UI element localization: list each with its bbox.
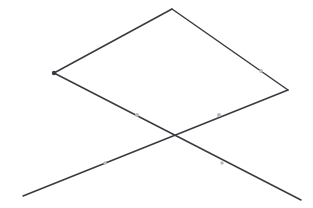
gap-marker-right-branch-icon	[217, 113, 221, 117]
gap-marker-lower-left-icon	[103, 161, 106, 164]
left-vertex-node-icon	[52, 71, 56, 75]
canvas-background	[0, 0, 313, 208]
gap-marker-left-branch-icon	[135, 113, 139, 117]
drawing-canvas	[0, 0, 313, 208]
line-drawing-figure	[0, 0, 313, 208]
gap-marker-upper-right-icon	[259, 69, 263, 73]
gap-marker-lower-right-icon	[220, 161, 223, 164]
